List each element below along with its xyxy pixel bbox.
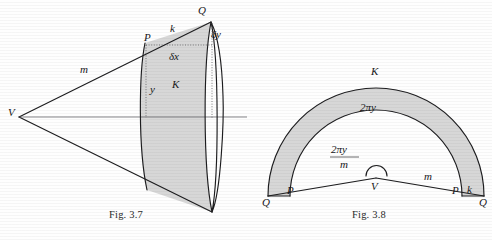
label-slant-k: k [170, 22, 176, 34]
fig-3-7-group: V m k P Q K y δx δy Fig. 3.7 [8, 4, 247, 220]
label-apex-v: V [8, 106, 16, 118]
label-slant-m-sector: m [424, 170, 432, 182]
label-delta-y: δy [211, 28, 221, 40]
figure-sheet: V m k P Q K y δx δy Fig. 3.7 [0, 0, 492, 240]
label-angle-fraction: 2πy m [330, 143, 359, 170]
angle-fraction-numerator: 2πy [331, 143, 347, 155]
label-apex-v-sector: V [371, 180, 379, 192]
label-point-q-right: Q [479, 196, 487, 208]
label-band-k: K [171, 78, 180, 90]
label-point-q: Q [198, 4, 206, 16]
label-point-p: P [143, 31, 151, 43]
angle-fraction-denominator: m [340, 158, 348, 170]
figures-svg: V m k P Q K y δx δy Fig. 3.7 [0, 0, 492, 240]
label-arc-inner-2piy: 2πy [360, 101, 376, 113]
vertex-angle-arc [366, 166, 387, 176]
label-radius-y: y [149, 83, 155, 95]
fig-3-8-group: K 2πy 2πy m V m k P P Q Q Fig. 3.8 [262, 65, 487, 220]
label-point-q-left: Q [262, 196, 270, 208]
label-point-p-right: P [451, 184, 459, 196]
label-point-p-left: P [286, 184, 294, 196]
caption-fig-3-8: Fig. 3.8 [352, 209, 386, 220]
caption-fig-3-7: Fig. 3.7 [109, 209, 143, 220]
label-slant-m: m [80, 63, 88, 75]
label-band-k-sector: K [370, 65, 379, 77]
label-delta-x: δx [169, 50, 179, 62]
